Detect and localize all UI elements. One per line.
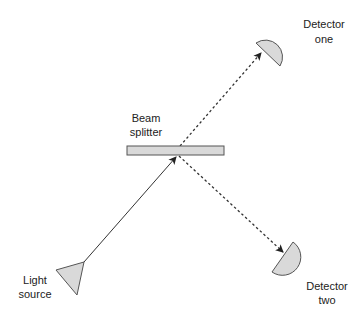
light-source-label-line2: source: [18, 288, 51, 300]
light-source-icon: [56, 262, 84, 295]
detector-one-label-line1: Detector: [303, 18, 345, 30]
detector-two-label-line1: Detector: [306, 280, 348, 292]
detector-two-label-line2: two: [318, 294, 335, 306]
detector-one-label-line2: one: [315, 33, 333, 45]
detector-two-icon: [272, 242, 301, 275]
detector-one-icon: [256, 40, 283, 66]
beam-splitter-diagram: Beam splitter Detector one Detector two …: [0, 0, 362, 317]
beam-splitter-label-line1: Beam: [132, 112, 161, 124]
light-source-label-line1: Light: [23, 274, 47, 286]
beam-splitter-plate: [127, 146, 224, 155]
beam-splitter-label-line2: splitter: [130, 126, 163, 138]
reflected-beam: [179, 156, 283, 252]
incident-beam: [84, 157, 176, 262]
transmitted-beam: [180, 53, 261, 146]
